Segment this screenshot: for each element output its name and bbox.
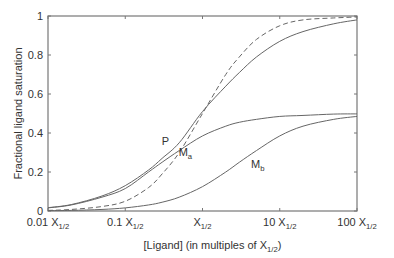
series-ma — [48, 114, 357, 208]
x-tick-label: 100 X1/2 — [337, 216, 376, 231]
curve-label-mb: Mb — [251, 158, 264, 173]
curve-label-ma: Ma — [179, 146, 193, 161]
y-tick-label: 0.4 — [28, 127, 43, 139]
y-tick-label: 0 — [37, 205, 43, 217]
curve-label-p: P — [162, 135, 169, 147]
y-axis-label: Fractional ligand saturation — [12, 47, 24, 179]
y-tick-label: 0.6 — [28, 88, 43, 100]
series-mb — [48, 116, 357, 210]
x-tick-label: 0.1 X1/2 — [107, 216, 143, 231]
y-tick-label: 0.2 — [28, 166, 43, 178]
x-tick-label: X1/2 — [193, 216, 211, 231]
axes: 0.01 X1/20.1 X1/2X1/210 X1/2100 X1/200.2… — [12, 10, 377, 254]
y-tick-label: 1 — [37, 10, 43, 22]
x-axis-label: [Ligand] (in multiples of X1/2) — [144, 239, 282, 254]
x-tick-label: 0.01 X1/2 — [27, 216, 70, 231]
y-tick-label: 0.8 — [28, 49, 43, 61]
curves — [48, 17, 357, 211]
series-p — [48, 20, 357, 208]
x-tick-label: 10 X1/2 — [263, 216, 296, 231]
plot-frame — [48, 16, 357, 211]
series-reference — [48, 17, 357, 210]
saturation-chart: 0.01 X1/20.1 X1/2X1/210 X1/2100 X1/200.2… — [0, 0, 394, 258]
labels: PMaMb — [162, 135, 265, 173]
